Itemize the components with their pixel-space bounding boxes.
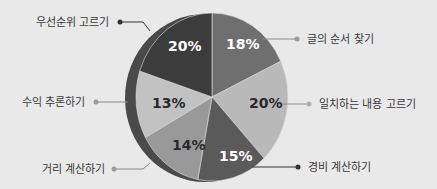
label-s1: 일치하는 내용 고르기: [319, 97, 416, 111]
leader-dot-s5: [118, 20, 123, 25]
leader-dot-s2: [296, 165, 301, 170]
pct-s4: 13%: [152, 95, 186, 111]
pct-s2: 15%: [219, 148, 253, 164]
leader-dot-s4: [94, 100, 99, 105]
label-s0: 글의 순서 찾기: [307, 33, 374, 46]
label-s5: 우선순위 고르기: [36, 16, 110, 29]
label-s4: 수익 추론하기: [22, 95, 86, 109]
pct-s5: 20%: [168, 38, 202, 54]
leader-line-s3: [114, 163, 150, 169]
pie-chart: 우선순위 고르기 글의 순서 찾기 일치하는 내용 고르기 경비 계산하기 수익…: [0, 0, 437, 189]
pct-s0: 18%: [226, 36, 260, 52]
label-s2: 경비 계산하기: [308, 160, 372, 174]
leader-line-s5: [120, 22, 150, 31]
pct-s1: 20%: [249, 95, 283, 111]
leader-dot-s3: [112, 167, 117, 172]
leader-dot-s1: [307, 102, 312, 107]
leader-dot-s0: [295, 37, 300, 42]
label-s3: 거리 계산하기: [42, 162, 106, 176]
pct-s3: 14%: [172, 137, 206, 153]
